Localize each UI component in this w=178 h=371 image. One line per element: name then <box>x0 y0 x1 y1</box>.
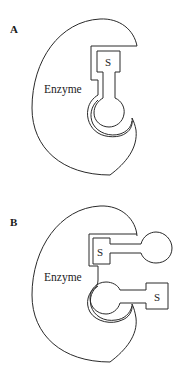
enzyme-b-shape <box>32 206 137 362</box>
panel-b-label: B <box>10 216 18 228</box>
substrate-a-label: S <box>105 56 111 68</box>
enzyme-a-label: Enzyme <box>44 83 82 96</box>
substrate-b1-label: S <box>97 246 103 258</box>
enzyme-b-label: Enzyme <box>44 271 82 284</box>
panel-a-label: A <box>10 23 18 35</box>
substrate-b2-label: S <box>154 291 160 303</box>
enzyme-a-shape <box>32 19 137 175</box>
active-site-a-outline <box>91 100 132 135</box>
substrate-b1-shape <box>93 232 172 264</box>
panel-b: B S S Enzyme <box>10 206 172 362</box>
panel-a: A S Enzyme <box>10 19 137 175</box>
